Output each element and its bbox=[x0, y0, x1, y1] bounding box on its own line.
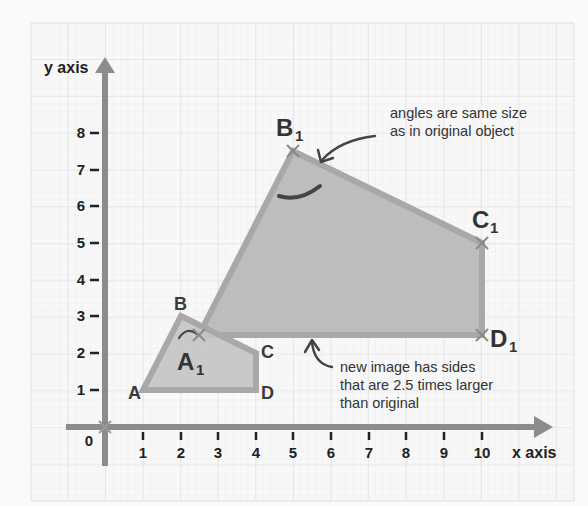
x-tick-label: 4 bbox=[252, 444, 261, 461]
y-tick-label: 8 bbox=[77, 124, 85, 141]
svg-text:A: A bbox=[177, 348, 194, 375]
origin-label: 0 bbox=[85, 432, 93, 449]
x-tick-label: 3 bbox=[214, 444, 222, 461]
x-tick-label: 2 bbox=[177, 444, 185, 461]
y-axis-title: y axis bbox=[44, 59, 89, 76]
y-tick-label: 2 bbox=[77, 344, 85, 361]
y-tick-label: 1 bbox=[77, 381, 85, 398]
enlargement-diagram: 1 2 3 4 5 6 7 8 9 10 x axis 0 1 2 3 4 5 … bbox=[0, 0, 588, 506]
x-tick-label: 6 bbox=[327, 444, 335, 461]
svg-text:1: 1 bbox=[295, 127, 303, 144]
svg-text:B: B bbox=[276, 114, 293, 141]
x-tick-label: 7 bbox=[365, 444, 373, 461]
svg-text:that are 2.5 times larger: that are 2.5 times larger bbox=[340, 377, 493, 393]
x-tick-label: 5 bbox=[289, 444, 297, 461]
y-tick-label: 6 bbox=[77, 197, 85, 214]
svg-text:angles are same size: angles are same size bbox=[390, 105, 527, 121]
svg-text:1: 1 bbox=[196, 361, 204, 378]
svg-text:as in original object: as in original object bbox=[390, 123, 514, 139]
y-tick-label: 7 bbox=[77, 161, 85, 178]
x-tick-label: 1 bbox=[139, 444, 147, 461]
x-tick-label: 10 bbox=[474, 444, 491, 461]
y-tick-label: 5 bbox=[77, 234, 85, 251]
vertex-label-b: B bbox=[174, 294, 187, 314]
vertex-label-a: A bbox=[128, 383, 141, 403]
x-tick-label: 9 bbox=[440, 444, 448, 461]
svg-text:1: 1 bbox=[490, 219, 498, 236]
x-tick-label: 8 bbox=[402, 444, 410, 461]
svg-text:C: C bbox=[472, 206, 489, 233]
svg-text:than original: than original bbox=[340, 395, 419, 411]
vertex-label-d: D bbox=[261, 383, 274, 403]
svg-text:D: D bbox=[490, 325, 507, 352]
vertex-label-c: C bbox=[261, 342, 274, 362]
x-axis-title: x axis bbox=[512, 444, 557, 461]
svg-text:new image has sides: new image has sides bbox=[340, 359, 475, 375]
svg-text:1: 1 bbox=[509, 338, 517, 355]
y-tick-label: 4 bbox=[77, 271, 86, 288]
y-tick-label: 3 bbox=[77, 307, 85, 324]
